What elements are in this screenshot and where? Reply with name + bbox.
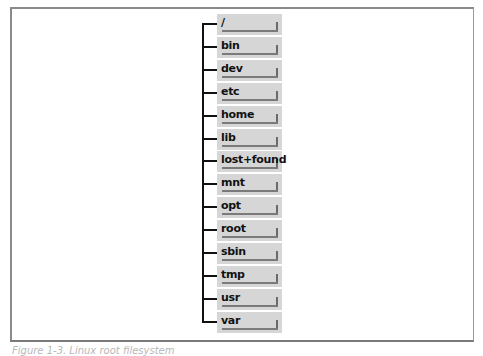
- box-shadow-horizontal: [222, 236, 278, 238]
- directory-label: /: [221, 16, 225, 30]
- directory-label: home: [221, 108, 254, 122]
- branch-connector: [202, 298, 217, 300]
- directory-label: usr: [221, 291, 240, 305]
- directory-label: lib: [221, 131, 236, 145]
- directory-label: sbin: [221, 245, 246, 259]
- directory-label: root: [221, 222, 246, 236]
- directory-label: mnt: [221, 176, 245, 190]
- directory-box: home: [217, 106, 282, 127]
- branch-connector: [202, 321, 217, 323]
- branch-connector: [202, 69, 217, 71]
- directory-label: etc: [221, 85, 239, 99]
- directory-box: root: [217, 220, 282, 241]
- directory-label: var: [221, 314, 240, 328]
- directory-box: mnt: [217, 174, 282, 195]
- branch-connector: [202, 160, 217, 162]
- box-shadow-horizontal: [222, 76, 278, 78]
- box-shadow-horizontal: [222, 282, 278, 284]
- directory-box: tmp: [217, 266, 282, 287]
- box-shadow-horizontal: [222, 259, 278, 261]
- branch-connector: [202, 46, 217, 48]
- box-shadow-horizontal: [222, 145, 278, 147]
- branch-connector: [202, 92, 217, 94]
- box-shadow-horizontal: [222, 167, 278, 169]
- directory-label: dev: [221, 62, 243, 76]
- branch-connector: [202, 183, 217, 185]
- figure-caption: Figure 1-3. Linux root filesystem: [12, 345, 174, 356]
- box-shadow-horizontal: [222, 213, 278, 215]
- box-shadow-horizontal: [222, 305, 278, 307]
- box-shadow-horizontal: [222, 122, 278, 124]
- directory-label: bin: [221, 39, 240, 53]
- directory-label: lost+found: [221, 153, 286, 167]
- branch-connector: [202, 229, 217, 231]
- directory-box: etc: [217, 83, 282, 104]
- directory-box: sbin: [217, 243, 282, 264]
- branch-connector: [202, 252, 217, 254]
- box-shadow-horizontal: [222, 328, 278, 330]
- directory-box: opt: [217, 197, 282, 218]
- directory-label: opt: [221, 199, 241, 213]
- directory-box: lost+found: [217, 151, 282, 172]
- directory-box: bin: [217, 37, 282, 58]
- branch-connector: [202, 206, 217, 208]
- branch-connector: [202, 23, 217, 25]
- directory-label: tmp: [221, 268, 245, 282]
- directory-box: usr: [217, 289, 282, 310]
- directory-box: dev: [217, 60, 282, 81]
- box-shadow-horizontal: [222, 190, 278, 192]
- box-shadow-horizontal: [222, 30, 278, 32]
- directory-box: lib: [217, 129, 282, 150]
- directory-box: var: [217, 312, 282, 333]
- box-shadow-horizontal: [222, 99, 278, 101]
- branch-connector: [202, 275, 217, 277]
- box-shadow-horizontal: [222, 53, 278, 55]
- branch-connector: [202, 138, 217, 140]
- branch-connector: [202, 115, 217, 117]
- directory-box: /: [217, 14, 282, 35]
